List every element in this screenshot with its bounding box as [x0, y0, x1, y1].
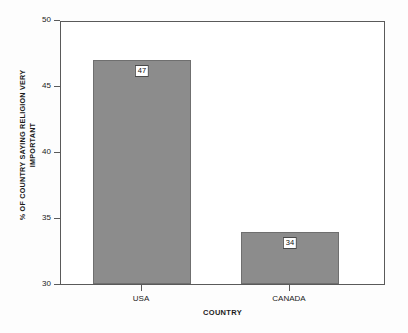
y-tick-label: 40 [42, 147, 51, 156]
bar-value-label: 34 [283, 237, 297, 249]
y-tick-label: 30 [42, 279, 51, 288]
y-axis-title: % OF COUNTRY SAYING RELIGION VERY IMPORT… [8, 0, 48, 290]
bar-canada[interactable]: 34 [241, 232, 339, 284]
x-axis-title: COUNTRY [60, 308, 385, 317]
bar-chart-figure: % OF COUNTRY SAYING RELIGION VERY IMPORT… [0, 0, 408, 333]
bar-usa[interactable]: 47 [93, 60, 191, 284]
bar-value-label: 47 [135, 65, 149, 77]
y-axis-title-line-2: IMPORTANT [28, 70, 38, 221]
plot-area: 47 34 [61, 22, 384, 284]
x-tick-label: USA [133, 294, 149, 303]
y-axis-title-line-1: % OF COUNTRY SAYING RELIGION VERY [18, 70, 28, 221]
y-tick-label: 50 [42, 15, 51, 24]
x-tick-mark [141, 285, 142, 291]
x-tick-mark [289, 285, 290, 291]
y-tick-label: 45 [42, 81, 51, 90]
plot-frame: 47 34 [60, 21, 385, 285]
y-tick-label: 35 [42, 213, 51, 222]
x-tick-label: CANADA [272, 294, 305, 303]
